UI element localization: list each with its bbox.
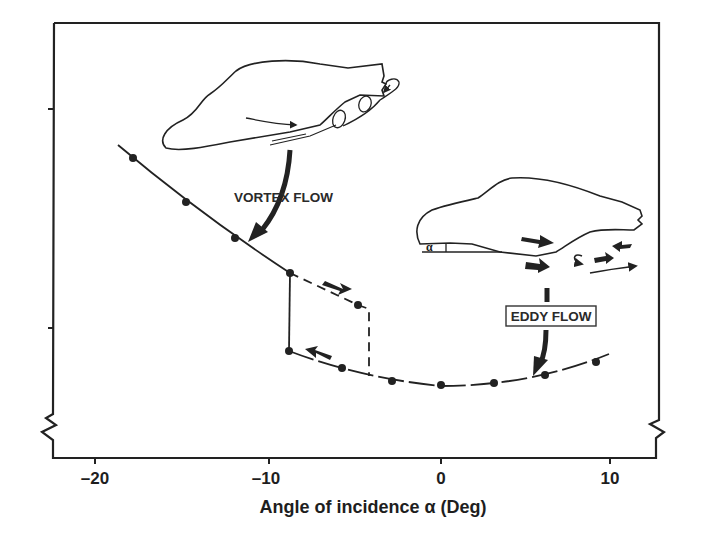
data-points (129, 154, 600, 389)
x-tick-label: –20 (81, 469, 109, 488)
x-tick-label: 0 (436, 469, 445, 488)
x-tick-label: 10 (601, 469, 620, 488)
figure-canvas: –20 –10 0 10 Angle of incidence α (Deg) (0, 0, 704, 556)
vortex-flow-label: VORTEX FLOW (234, 190, 333, 205)
x-axis-title: Angle of incidence α (Deg) (259, 497, 486, 517)
arrow-right-icon (322, 281, 352, 295)
car-sketch-eddy: α (417, 178, 642, 376)
eddy-flow-label-box: EDDY FLOW (506, 306, 596, 326)
car-sketch-vortex (163, 61, 399, 242)
eddy-flow-label: EDDY FLOW (511, 309, 592, 324)
vortex-branch-line (118, 145, 290, 273)
eddy-branch-line (289, 351, 609, 386)
direction-arrows (305, 281, 352, 360)
alpha-symbol: α (426, 240, 433, 254)
flow-arrow-icon (612, 241, 632, 252)
flow-arrow-icon (594, 252, 614, 264)
flow-arrow-icon (525, 258, 550, 273)
x-tick-label: –10 (252, 469, 280, 488)
flow-arrow-icon (521, 235, 554, 248)
hysteresis-dashed-line (290, 273, 369, 376)
jump-line (289, 273, 290, 351)
